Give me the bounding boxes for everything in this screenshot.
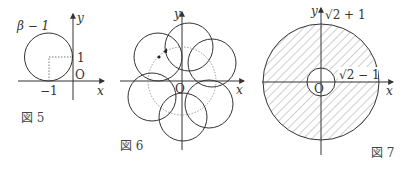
y-label: y: [173, 7, 181, 21]
figures-canvas: β − 1 y x 1 −1 O 図 5 y x O 図 6 y √2: [0, 0, 417, 169]
figure-6: y x O 図 6: [120, 7, 244, 153]
center-point: [157, 55, 160, 58]
x-label: x: [97, 84, 104, 98]
y-tick-1: 1: [77, 51, 85, 65]
figure-7: y √2 + 1 √2 − 1 x O 図 7: [260, 4, 394, 160]
figure-caption: 図 6: [120, 139, 143, 153]
figure-5: β − 1 y x 1 −1 O 図 5: [16, 11, 104, 125]
x-tick-minus-1: −1: [40, 84, 58, 98]
origin-label: O: [75, 68, 85, 82]
figure-caption: 図 5: [21, 111, 44, 125]
circle: [159, 93, 207, 141]
inner-radius-label: √2 − 1: [339, 68, 380, 82]
x-label: x: [386, 84, 393, 98]
figure-caption: 図 7: [371, 146, 394, 160]
circle: [165, 23, 213, 71]
origin-label: O: [314, 82, 324, 96]
origin-label: O: [175, 82, 185, 96]
circle-label: β − 1: [16, 19, 49, 33]
y-label: y: [310, 4, 318, 18]
x-label: x: [236, 83, 243, 97]
y-label: y: [76, 11, 84, 25]
outer-radius-label: √2 + 1: [325, 8, 366, 22]
